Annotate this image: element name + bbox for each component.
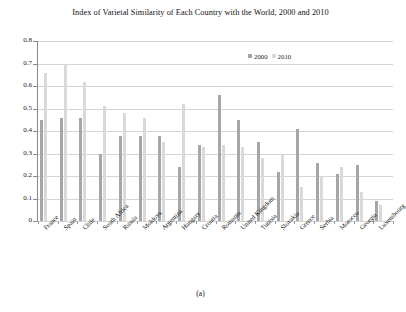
bar-2000 — [60, 118, 63, 222]
bar-2010 — [320, 176, 323, 221]
x-tick-mark — [176, 221, 177, 224]
figure-caption: (a) — [0, 289, 401, 298]
bar-group — [176, 41, 196, 221]
x-tick-mark — [137, 221, 138, 224]
bar-group — [216, 41, 236, 221]
bar-2010 — [202, 147, 205, 221]
y-tick-label: 0.6 — [2, 82, 32, 89]
bar-2000 — [158, 136, 161, 222]
bar-2010 — [64, 64, 67, 222]
bar-group — [38, 41, 58, 221]
bar-2000 — [336, 174, 339, 221]
x-tick-mark — [255, 221, 256, 224]
y-tick-label: 0.7 — [2, 60, 32, 67]
legend-swatch-2010-icon — [272, 54, 276, 58]
x-tick-mark — [97, 221, 98, 224]
x-tick-mark — [196, 221, 197, 224]
chart-title: Index of Varietal Similarity of Each Cou… — [0, 8, 401, 17]
legend-label-2000: 2000 — [254, 53, 268, 60]
bar-2010 — [83, 82, 86, 222]
bar-2010 — [44, 73, 47, 222]
x-tick-mark — [117, 221, 118, 224]
legend-swatch-2000-icon — [248, 54, 252, 58]
bar-2010 — [340, 167, 343, 221]
bar-2010 — [300, 187, 303, 221]
x-tick-mark — [235, 221, 236, 224]
bar-group — [58, 41, 78, 221]
bars-layer — [38, 41, 393, 221]
bar-2000 — [79, 118, 82, 222]
bar-2010 — [241, 147, 244, 221]
x-tick-mark — [314, 221, 315, 224]
x-tick-mark — [393, 221, 394, 224]
x-tick-mark — [58, 221, 59, 224]
bar-group — [334, 41, 354, 221]
y-tick-label: 0.5 — [2, 105, 32, 112]
bar-2000 — [40, 120, 43, 221]
y-tick-label: 0.3 — [2, 150, 32, 157]
bar-group — [97, 41, 117, 221]
bar-2010 — [103, 106, 106, 221]
bar-2000 — [316, 163, 319, 222]
bar-2010 — [182, 104, 185, 221]
bar-group — [235, 41, 255, 221]
y-tick-label: 0.2 — [2, 172, 32, 179]
bar-group — [77, 41, 97, 221]
y-tick-label: 0 — [2, 217, 32, 224]
bar-group — [294, 41, 314, 221]
x-tick-mark — [373, 221, 374, 224]
bar-2010 — [222, 145, 225, 222]
bar-group — [373, 41, 393, 221]
chart-legend: 2000 2010 — [248, 51, 291, 61]
y-tick-label: 0.1 — [2, 195, 32, 202]
bar-2010 — [379, 205, 382, 221]
x-tick-mark — [354, 221, 355, 224]
bar-2010 — [162, 142, 165, 221]
x-tick-mark — [334, 221, 335, 224]
bar-2000 — [277, 172, 280, 222]
bar-2000 — [139, 136, 142, 222]
bar-2000 — [218, 95, 221, 221]
bar-group — [137, 41, 157, 221]
bar-2010 — [281, 154, 284, 222]
x-tick-mark — [216, 221, 217, 224]
bar-2000 — [99, 154, 102, 222]
y-tick-label: 0.8 — [2, 37, 32, 44]
x-tick-mark — [156, 221, 157, 224]
bar-group — [255, 41, 275, 221]
bar-2000 — [296, 129, 299, 221]
bar-group — [117, 41, 137, 221]
legend-item-2010: 2010 — [272, 53, 292, 60]
bar-2010 — [360, 192, 363, 221]
bar-2010 — [143, 118, 146, 222]
x-tick-mark — [294, 221, 295, 224]
legend-label-2010: 2010 — [278, 53, 292, 60]
bar-group — [314, 41, 334, 221]
y-tick-label: 0.4 — [2, 127, 32, 134]
x-axis-category-labels: FranceSpainChileSouth AfricaRussiaMoldov… — [0, 226, 401, 288]
bar-2000 — [198, 145, 201, 222]
bar-group — [196, 41, 216, 221]
bar-2000 — [237, 120, 240, 221]
x-tick-mark — [38, 221, 39, 224]
bar-group — [354, 41, 374, 221]
x-tick-mark — [275, 221, 276, 224]
x-tick-mark — [77, 221, 78, 224]
bar-group — [156, 41, 176, 221]
legend-item-2000: 2000 — [248, 53, 268, 60]
bar-group — [275, 41, 295, 221]
